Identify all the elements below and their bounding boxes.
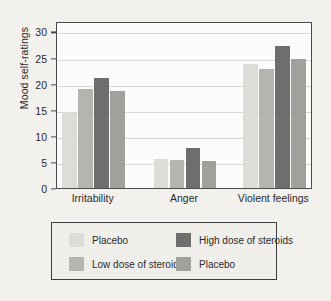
y-tick-label: 30 <box>7 26 47 38</box>
chart-legend: PlaceboHigh dose of steroidsLow dose of … <box>51 222 277 280</box>
legend-swatch <box>176 233 191 247</box>
legend-label: Placebo <box>199 259 235 270</box>
legend-entry: Low dose of steroids <box>69 257 184 271</box>
y-tick-label: 15 <box>7 105 47 117</box>
bar <box>170 160 185 188</box>
legend-label: Placebo <box>92 235 128 246</box>
bar <box>275 46 290 188</box>
x-tick-label: Irritability <box>72 192 114 204</box>
legend-label: Low dose of steroids <box>92 259 184 270</box>
bars-layer <box>57 23 311 188</box>
legend-swatch <box>176 257 191 271</box>
plot-area <box>56 22 312 189</box>
bar <box>78 89 93 188</box>
bar <box>202 161 217 188</box>
bar <box>110 91 125 188</box>
legend-entry: Placebo <box>176 257 235 271</box>
y-tick-label: 20 <box>7 79 47 91</box>
bar <box>243 64 258 188</box>
bar-chart-figure: Mood self-ratings 051015202530 Irritabil… <box>0 0 331 301</box>
legend-swatch <box>69 257 84 271</box>
bar <box>94 78 109 188</box>
y-tick-label: 25 <box>7 53 47 65</box>
y-tick-label: 10 <box>7 131 47 143</box>
bar <box>186 148 201 188</box>
y-tick-label: 5 <box>7 157 47 169</box>
legend-entry: Placebo <box>69 233 128 247</box>
bar <box>62 112 77 188</box>
bar <box>259 69 274 189</box>
y-tick-label: 0 <box>7 183 47 195</box>
legend-swatch <box>69 233 84 247</box>
x-tick-label: Anger <box>170 192 198 204</box>
bar <box>154 159 169 188</box>
x-tick-label: Violent feelings <box>238 192 309 204</box>
bar <box>291 59 306 188</box>
legend-entry: High dose of steroids <box>176 233 293 247</box>
legend-label: High dose of steroids <box>199 235 293 246</box>
